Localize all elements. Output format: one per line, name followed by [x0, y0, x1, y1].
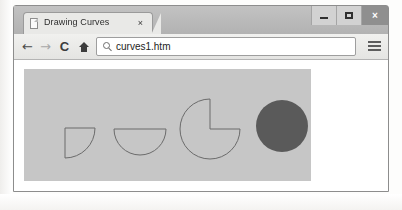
browser-toolbar: ← → C curves1.htm [14, 34, 388, 60]
close-icon: × [372, 11, 378, 21]
browser-window: Drawing Curves × × ← → [13, 5, 389, 192]
canvas-shapes [24, 69, 311, 181]
page-viewport [14, 60, 388, 191]
back-button[interactable]: ← [19, 38, 36, 55]
filled-circle-shape [256, 100, 308, 152]
menu-line-2 [368, 45, 381, 47]
page-edge-shading-bottom [0, 194, 402, 210]
arrow-right-icon: → [40, 40, 51, 54]
menu-line-1 [368, 41, 381, 43]
reload-button[interactable]: C [56, 38, 73, 55]
arrow-left-icon: ← [22, 40, 33, 54]
browser-tab-drawing-curves[interactable]: Drawing Curves × [23, 12, 153, 34]
reload-icon: C [60, 40, 69, 54]
window-controls: × [311, 6, 388, 25]
close-window-button[interactable]: × [361, 6, 388, 25]
page-edge-shading-left [0, 0, 12, 210]
tab-close-icon[interactable]: × [138, 17, 143, 30]
address-bar-value: curves1.htm [116, 41, 170, 52]
page-icon [30, 18, 38, 29]
maximize-icon [345, 12, 353, 19]
three-quarter-pie-shape [180, 99, 240, 159]
scanned-page-background: Drawing Curves × × ← → [0, 0, 402, 210]
magnifier-icon [103, 42, 110, 49]
home-button[interactable] [75, 38, 92, 55]
address-bar[interactable]: curves1.htm [96, 37, 356, 56]
hamburger-menu-icon[interactable] [368, 40, 381, 52]
quarter-pie-shape [65, 128, 95, 158]
menu-line-3 [368, 49, 381, 51]
semicircle-shape [114, 129, 166, 155]
tab-strip: Drawing Curves × × [14, 6, 388, 34]
maximize-button[interactable] [336, 6, 361, 25]
tab-title: Drawing Curves [44, 17, 109, 27]
forward-button[interactable]: → [37, 38, 54, 55]
drawing-canvas [24, 69, 311, 181]
minimize-icon [320, 17, 328, 19]
minimize-button[interactable] [311, 6, 336, 25]
